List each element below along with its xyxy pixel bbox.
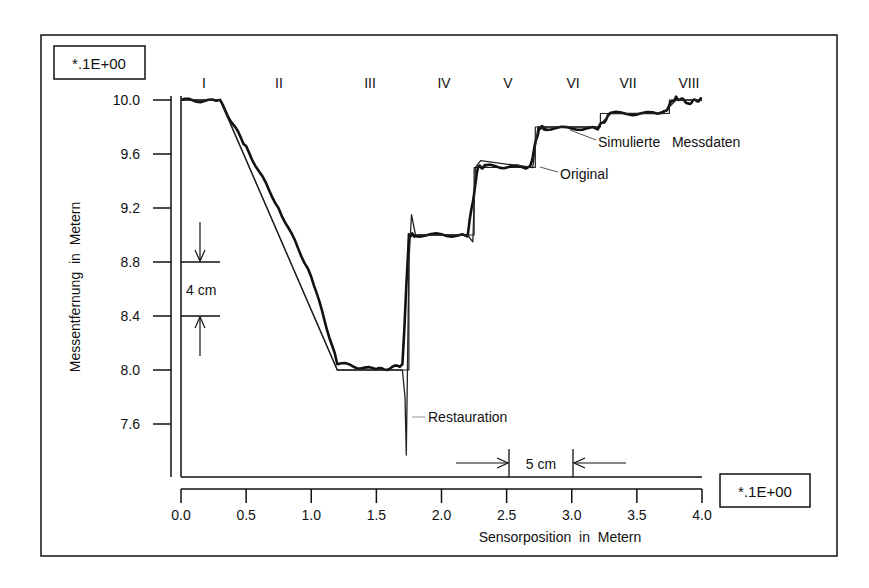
series-restauration: [181, 100, 702, 455]
x-tick-label: 4.0: [692, 507, 712, 523]
chart: *.1E+00 *.1E+00 10.09.69.28.88.48.07.6 0…: [0, 0, 869, 588]
segment-label: VIII: [678, 75, 699, 91]
segment-label: III: [364, 75, 376, 91]
segment-labels: IIIIIIIVVVIVIIVIII: [202, 75, 699, 91]
y-axis-ticks: 10.09.69.28.88.48.07.6: [113, 92, 171, 432]
label-4cm: 4 cm: [186, 282, 216, 298]
segment-label: IV: [437, 75, 451, 91]
y-tick-label: 9.6: [121, 146, 141, 162]
segment-label: V: [503, 75, 513, 91]
x-tick-label: 1.0: [302, 507, 322, 523]
annotation-simulierte-messdaten: Simulierte Messdaten: [598, 134, 740, 150]
x-tick-label: 2.5: [497, 507, 517, 523]
x-axis-ticks: 0.00.51.01.52.02.53.03.54.0: [171, 489, 712, 523]
y-scale-label: *.1E+00: [72, 55, 126, 72]
y-tick-label: 10.0: [113, 92, 140, 108]
y-tick-label: 9.2: [121, 200, 141, 216]
series-group: [181, 97, 702, 456]
x-axis-title: Sensorposition in Metern: [479, 529, 642, 545]
segment-label: VI: [566, 75, 579, 91]
y-tick-label: 8.0: [121, 362, 141, 378]
x-tick-label: 2.0: [432, 507, 452, 523]
y-tick-label: 7.6: [121, 416, 141, 432]
segment-label: VII: [619, 75, 636, 91]
x-scale-label: *.1E+00: [738, 483, 792, 500]
dimension-4cm: 4 cm: [181, 222, 220, 356]
label-5cm: 5 cm: [526, 456, 556, 472]
y-tick-label: 8.4: [121, 308, 141, 324]
x-tick-label: 3.5: [627, 507, 647, 523]
x-tick-label: 0.0: [171, 507, 191, 523]
leader-original: [540, 167, 558, 172]
dimension-5cm: 5 cm: [456, 449, 626, 477]
outer-frame: [41, 35, 837, 556]
x-tick-label: 0.5: [236, 507, 256, 523]
x-tick-label: 1.5: [367, 507, 387, 523]
y-axis-title: Messentfernung in Metern: [67, 202, 83, 372]
annotation-restauration: Restauration: [428, 409, 507, 425]
annotation-original: Original: [560, 166, 608, 182]
leader-simulierte: [570, 130, 596, 140]
segment-label: II: [275, 75, 283, 91]
segment-label: I: [202, 75, 206, 91]
y-tick-label: 8.8: [121, 254, 141, 270]
x-tick-label: 3.0: [562, 507, 582, 523]
